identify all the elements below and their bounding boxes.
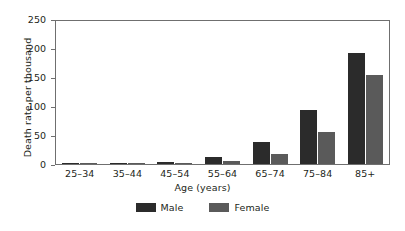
bar-male: [157, 162, 174, 164]
legend-label-male: Male: [161, 202, 184, 213]
y-tick-label: 200: [28, 43, 46, 54]
x-axis-title: Age (years): [0, 182, 405, 193]
bar-group: [253, 21, 288, 164]
x-tick-label: 35–44: [104, 168, 152, 179]
legend-item-male: Male: [136, 202, 184, 213]
bar-female: [318, 132, 335, 164]
bar-group: [300, 21, 335, 164]
bar-female: [175, 163, 192, 164]
bar-group: [157, 21, 192, 164]
bar-chart-figure: Death rate per thousand 050100150200250 …: [0, 0, 405, 231]
bar-group: [110, 21, 145, 164]
bar-female: [366, 75, 383, 164]
bar-female: [271, 154, 288, 164]
y-tick-mark: [51, 165, 55, 166]
bar-male: [110, 163, 127, 164]
y-tick-label: 250: [28, 14, 46, 25]
bar-female: [223, 161, 240, 164]
x-tick-label: 25–34: [56, 168, 104, 179]
legend-item-female: Female: [209, 202, 269, 213]
x-tick-label: 75–84: [294, 168, 342, 179]
x-tick-label: 85+: [341, 168, 389, 179]
y-tick-label: 100: [28, 101, 46, 112]
bar-group: [62, 21, 97, 164]
bar-female: [80, 163, 97, 164]
bar-group: [348, 21, 383, 164]
legend-swatch-male: [136, 203, 156, 212]
y-tick-label: 50: [34, 130, 46, 141]
x-tick-label: 55–64: [199, 168, 247, 179]
y-axis-title: Death rate per thousand: [22, 18, 33, 178]
legend-label-female: Female: [234, 202, 269, 213]
bar-series-container: [56, 21, 389, 164]
bar-group: [205, 21, 240, 164]
bar-male: [300, 110, 317, 164]
y-tick-label: 0: [40, 159, 46, 170]
x-tick-label: 45–54: [151, 168, 199, 179]
bar-male: [205, 157, 222, 164]
bar-male: [348, 53, 365, 164]
y-tick-label: 150: [28, 72, 46, 83]
x-tick-label: 65–74: [246, 168, 294, 179]
bar-female: [128, 163, 145, 164]
legend-swatch-female: [209, 203, 229, 212]
bar-male: [62, 163, 79, 164]
bar-male: [253, 142, 270, 164]
chart-legend: MaleFemale: [0, 202, 405, 213]
